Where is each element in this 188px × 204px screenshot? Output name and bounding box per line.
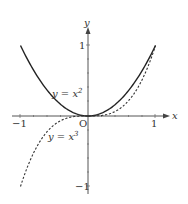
y-axis <box>86 27 91 194</box>
x-axis-arrow-icon <box>163 114 170 119</box>
y-tick-neg1: −1 <box>75 181 90 192</box>
y-axis-label: y <box>83 17 90 28</box>
x-axis-label: x <box>172 110 178 121</box>
origin-label: O <box>79 118 87 129</box>
x-tick-neg1: −1 <box>12 118 27 129</box>
y-axis-arrow-icon <box>86 27 91 34</box>
cubic-label: y = x3 <box>47 130 79 142</box>
y-tick-1: 1 <box>79 40 85 51</box>
function-graph: x y O −1 1 1 −1 y = x2 y = x3 <box>0 0 188 204</box>
x-tick-1: 1 <box>151 118 157 129</box>
parabola-label: y = x2 <box>51 87 83 99</box>
graph-canvas: x y O −1 1 1 −1 y = x2 y = x3 <box>0 0 188 204</box>
